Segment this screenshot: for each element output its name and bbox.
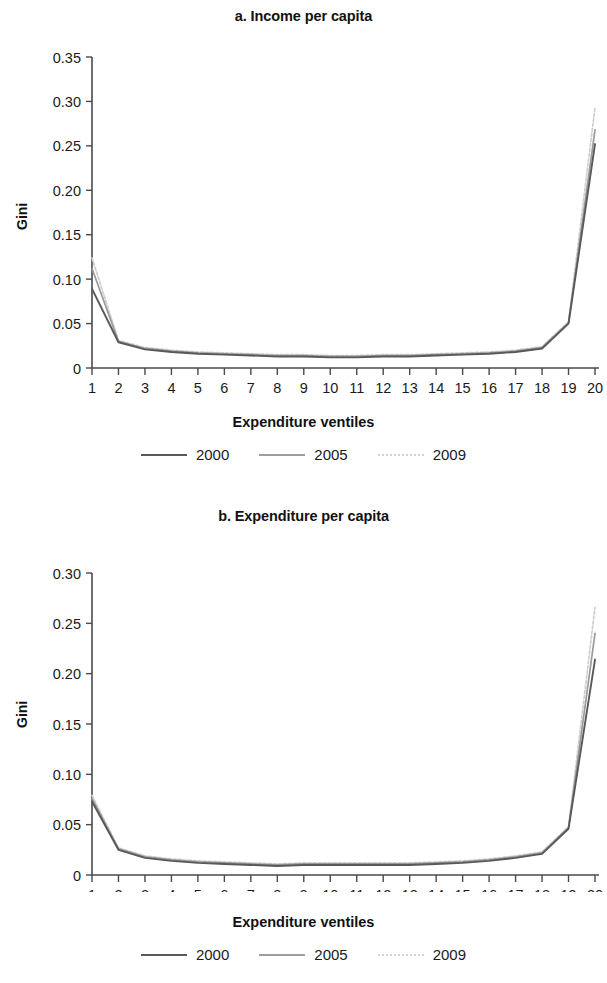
- line-swatch-solid-dark-icon: [141, 954, 187, 956]
- line-swatch-solid-dark-icon: [141, 454, 187, 456]
- line-swatch-solid-gray-icon: [259, 954, 305, 956]
- legend-label-2005: 2005: [314, 446, 347, 463]
- panel-b-plot: 00.050.100.150.200.250.30123456789101112…: [0, 500, 607, 892]
- figure-container: a. Income per capita Gini 00.050.100.150…: [0, 0, 607, 983]
- x-tick-label: 13: [402, 887, 418, 892]
- x-tick-label: 12: [375, 887, 391, 892]
- y-tick-label: 0.25: [53, 616, 81, 632]
- x-tick-label: 6: [220, 380, 228, 396]
- panel-income-per-capita: a. Income per capita Gini 00.050.100.150…: [0, 0, 607, 492]
- x-tick-label: 17: [508, 887, 524, 892]
- y-tick-label: 0.05: [53, 817, 81, 833]
- legend-item-2000[interactable]: 2000: [141, 946, 229, 963]
- x-tick-label: 20: [587, 380, 603, 396]
- x-tick-label: 10: [322, 887, 338, 892]
- line-swatch-solid-gray-icon: [259, 454, 305, 456]
- x-tick-label: 1: [88, 380, 96, 396]
- y-tick-label: 0.20: [53, 666, 81, 682]
- y-tick-label: 0.10: [53, 272, 81, 288]
- x-tick-label: 6: [220, 887, 228, 892]
- x-tick-label: 18: [534, 887, 550, 892]
- legend-label-2009: 2009: [433, 946, 466, 963]
- y-tick-label: 0.15: [53, 717, 81, 733]
- legend-label-2009: 2009: [433, 446, 466, 463]
- x-tick-label: 19: [560, 887, 576, 892]
- x-tick-label: 7: [247, 380, 255, 396]
- y-tick-label: 0: [73, 361, 81, 377]
- panel-a-legend: 2000 2005 2009: [0, 446, 607, 463]
- series-line-2009: [92, 607, 595, 864]
- x-tick-label: 15: [455, 887, 471, 892]
- x-tick-label: 3: [141, 380, 149, 396]
- x-tick-label: 17: [508, 380, 524, 396]
- y-tick-label: 0.10: [53, 767, 81, 783]
- x-tick-label: 12: [375, 380, 391, 396]
- y-tick-label: 0.25: [53, 138, 81, 154]
- legend-item-2000[interactable]: 2000: [141, 446, 229, 463]
- x-tick-label: 3: [141, 887, 149, 892]
- x-tick-label: 1: [88, 887, 96, 892]
- x-tick-label: 19: [560, 380, 576, 396]
- x-tick-label: 5: [194, 380, 202, 396]
- x-tick-label: 15: [455, 380, 471, 396]
- series-line-2005: [92, 130, 595, 357]
- panel-a-x-axis-label: Expenditure ventiles: [0, 414, 607, 430]
- x-tick-label: 11: [349, 380, 364, 396]
- panel-b-x-axis-label: Expenditure ventiles: [0, 914, 607, 930]
- line-swatch-dotted-light-icon: [378, 454, 424, 456]
- x-tick-label: 11: [349, 887, 364, 892]
- panel-a-plot: 00.050.100.150.200.250.300.3512345678910…: [0, 0, 607, 400]
- series-line-2009: [92, 108, 595, 356]
- x-tick-label: 5: [194, 887, 202, 892]
- legend-item-2009[interactable]: 2009: [378, 946, 466, 963]
- x-tick-label: 20: [587, 887, 603, 892]
- y-tick-label: 0.30: [53, 566, 81, 582]
- y-tick-label: 0.30: [53, 94, 81, 110]
- x-tick-label: 7: [247, 887, 255, 892]
- x-tick-label: 16: [481, 887, 497, 892]
- x-tick-label: 14: [428, 887, 444, 892]
- y-tick-label: 0: [73, 868, 81, 884]
- y-tick-label: 0.20: [53, 183, 81, 199]
- series-line-2005: [92, 633, 595, 865]
- x-tick-label: 9: [300, 887, 308, 892]
- x-tick-label: 18: [534, 380, 550, 396]
- legend-item-2009[interactable]: 2009: [378, 446, 466, 463]
- x-tick-label: 4: [167, 380, 175, 396]
- panel-expenditure-per-capita: b. Expenditure per capita Gini 00.050.10…: [0, 492, 607, 983]
- x-tick-label: 10: [322, 380, 338, 396]
- x-tick-label: 8: [273, 380, 281, 396]
- x-tick-label: 13: [402, 380, 418, 396]
- line-swatch-dotted-light-icon: [378, 954, 424, 956]
- x-tick-label: 16: [481, 380, 497, 396]
- panel-b-legend: 2000 2005 2009: [0, 946, 607, 963]
- legend-label-2000: 2000: [196, 946, 229, 963]
- x-tick-label: 9: [300, 380, 308, 396]
- x-tick-label: 14: [428, 380, 444, 396]
- legend-label-2005: 2005: [314, 946, 347, 963]
- x-tick-label: 2: [114, 887, 122, 892]
- y-tick-label: 0.05: [53, 316, 81, 332]
- legend-label-2000: 2000: [196, 446, 229, 463]
- series-line-2000: [92, 660, 595, 866]
- x-tick-label: 8: [273, 887, 281, 892]
- y-tick-label: 0.15: [53, 227, 81, 243]
- series-line-2000: [92, 144, 595, 357]
- legend-item-2005[interactable]: 2005: [259, 946, 347, 963]
- y-tick-label: 0.35: [53, 50, 81, 66]
- legend-item-2005[interactable]: 2005: [259, 446, 347, 463]
- x-tick-label: 4: [167, 887, 175, 892]
- x-tick-label: 2: [114, 380, 122, 396]
